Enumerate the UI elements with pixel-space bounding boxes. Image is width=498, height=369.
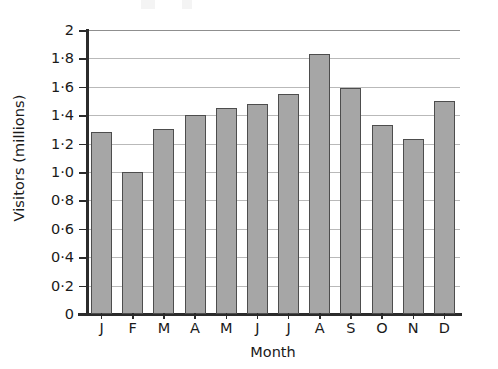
y-axis-tick-mark [79,58,86,60]
y-axis-tick-label: 0·2 [30,279,74,293]
x-axis-tick-label: S [335,318,366,338]
bar-june [247,104,268,314]
bar-december [434,101,455,314]
bar-march [153,129,174,314]
x-axis-tick-label: O [367,318,398,338]
x-axis-tick-label: J [242,318,273,338]
x-axis-tick-mark [319,313,321,319]
y-axis-tick-label: 1·4 [30,108,74,122]
y-axis-title: Visitors (millions) [8,8,30,308]
x-axis-tick-label: M [148,318,179,338]
x-axis-tick-label: A [304,318,335,338]
bars-layer [86,30,460,314]
x-axis-tick-mark [194,313,196,319]
y-axis-tick-mark [79,87,86,89]
x-axis-tick-label: F [117,318,148,338]
x-axis-tick-mark [288,313,290,319]
x-axis-tick-label: A [180,318,211,338]
x-axis-tick-mark [132,313,134,319]
x-axis-tick-label: D [429,318,460,338]
x-axis-tick-labels: JFMAMJJASOND [86,318,460,340]
y-axis-tick-labels: 00·20·40·60·81·01·21·41·61·82 [30,18,74,314]
y-axis-tick-mark [79,30,86,32]
scan-artifact [141,0,155,9]
y-axis-tick-label: 1·0 [30,165,74,179]
x-axis-title: Month [86,342,460,362]
bar-november [403,139,424,314]
x-axis-tick-mark [413,313,415,319]
scan-artifact [182,0,192,9]
y-axis-tick-label: 0·4 [30,250,74,264]
x-axis-tick-mark [350,313,352,319]
x-axis-tick-label: N [398,318,429,338]
y-axis-tick-mark [79,257,86,259]
bar-october [372,125,393,314]
y-axis-tick-mark [79,200,86,202]
x-axis-tick-mark [101,313,103,319]
y-axis-tick-mark [79,115,86,117]
y-axis-tick-label: 1·6 [30,80,74,94]
x-axis-tick-label: J [86,318,117,338]
y-axis-tick-label: 1·8 [30,51,74,65]
bar-chart-figure: Visitors (millions) 00·20·40·60·81·01·21… [0,0,498,369]
bar-august [309,54,330,314]
y-axis-tick-label: 2 [30,23,74,37]
bar-september [340,88,361,314]
bar-july [278,94,299,314]
y-axis-tick-label: 0·8 [30,193,74,207]
y-axis-tick-mark [79,229,86,231]
y-axis-tick-label: 0·6 [30,222,74,236]
bar-may [216,108,237,314]
x-axis-tick-label: M [211,318,242,338]
y-axis-tick-mark [79,286,86,288]
bar-january [91,132,112,314]
x-axis-tick-mark [163,313,165,319]
y-axis-tick-label: 0 [30,307,74,321]
x-axis-tick-mark [444,313,446,319]
bar-february [122,172,143,314]
y-axis-tick-mark [79,144,86,146]
y-axis-tick-label: 1·2 [30,137,74,151]
x-axis-tick-mark [257,313,259,319]
bar-april [185,115,206,314]
x-axis-tick-mark [381,313,383,319]
y-axis-tick-mark [79,314,86,316]
x-axis-tick-label: J [273,318,304,338]
x-axis-tick-mark [226,313,228,319]
y-axis-tick-mark [79,172,86,174]
